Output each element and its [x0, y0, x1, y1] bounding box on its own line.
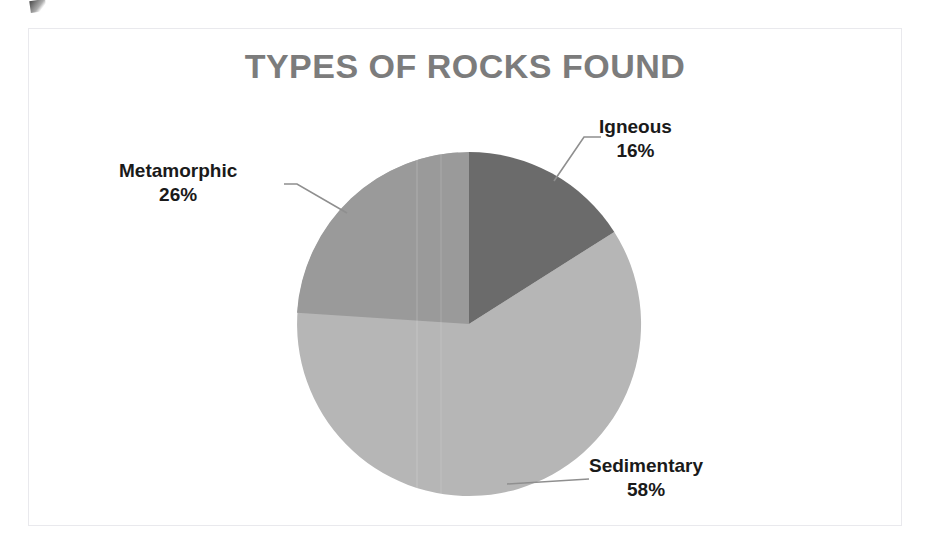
pie-label-igneous: Igneous 16% — [599, 115, 672, 163]
pie-label-igneous-name: Igneous — [599, 116, 672, 137]
pie-label-sedimentary-name: Sedimentary — [589, 455, 703, 476]
leader-line-igneous — [554, 137, 601, 181]
pie-chart-graphic — [29, 29, 903, 527]
pie-slice-metamorphic[interactable] — [297, 152, 469, 324]
chart-frame: TYPES OF ROCKS FOUND Igneous 16% Metamor… — [28, 28, 902, 526]
scan-artifact — [29, 0, 47, 13]
pie-label-metamorphic-name: Metamorphic — [119, 160, 237, 181]
pie-label-igneous-percent: 16% — [599, 139, 672, 163]
pie-label-sedimentary: Sedimentary 58% — [589, 454, 703, 502]
pie-label-metamorphic-percent: 26% — [119, 183, 237, 207]
leader-line-metamorphic — [284, 184, 347, 213]
pie-label-metamorphic: Metamorphic 26% — [119, 159, 237, 207]
pie-label-sedimentary-percent: 58% — [589, 478, 703, 502]
